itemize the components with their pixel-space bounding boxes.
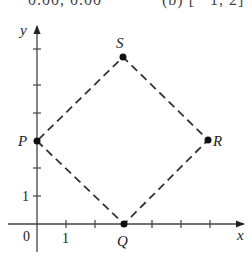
origin-label: 0 (23, 229, 30, 244)
label-p: P (17, 133, 27, 149)
x-axis-label: x (236, 227, 244, 243)
point-r (205, 137, 212, 144)
point-q (121, 221, 128, 228)
coordinate-diagram: P Q R S x y 0 1 1 (0, 0, 252, 261)
label-r: R (212, 133, 222, 149)
label-s: S (116, 35, 124, 51)
label-q: Q (117, 233, 128, 249)
point-p (34, 138, 41, 145)
point-s (120, 54, 127, 61)
dashed-square-pqrs (37, 57, 208, 224)
y-tick-label-1: 1 (22, 189, 29, 204)
x-tick-label-1: 1 (62, 231, 69, 246)
y-axis-label: y (18, 22, 27, 38)
